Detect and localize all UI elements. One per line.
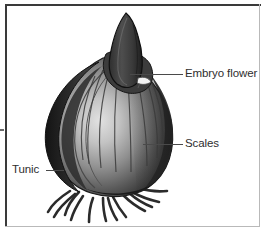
frame-bottom-border <box>5 226 260 227</box>
label-tunic: Tunic <box>12 163 39 176</box>
label-embryo-flower: Embryo flower <box>185 67 257 80</box>
leader-line-scales <box>143 144 183 145</box>
page-edge-tick-mark <box>0 129 4 131</box>
leader-line-tunic <box>46 170 64 171</box>
bulb-illustration <box>7 6 259 226</box>
frame-right-border <box>259 4 260 227</box>
bulb-anatomy-figure: Embryo flower Scales Tunic <box>0 0 267 235</box>
label-scales: Scales <box>185 137 219 150</box>
leader-line-embryo-flower <box>130 74 183 75</box>
